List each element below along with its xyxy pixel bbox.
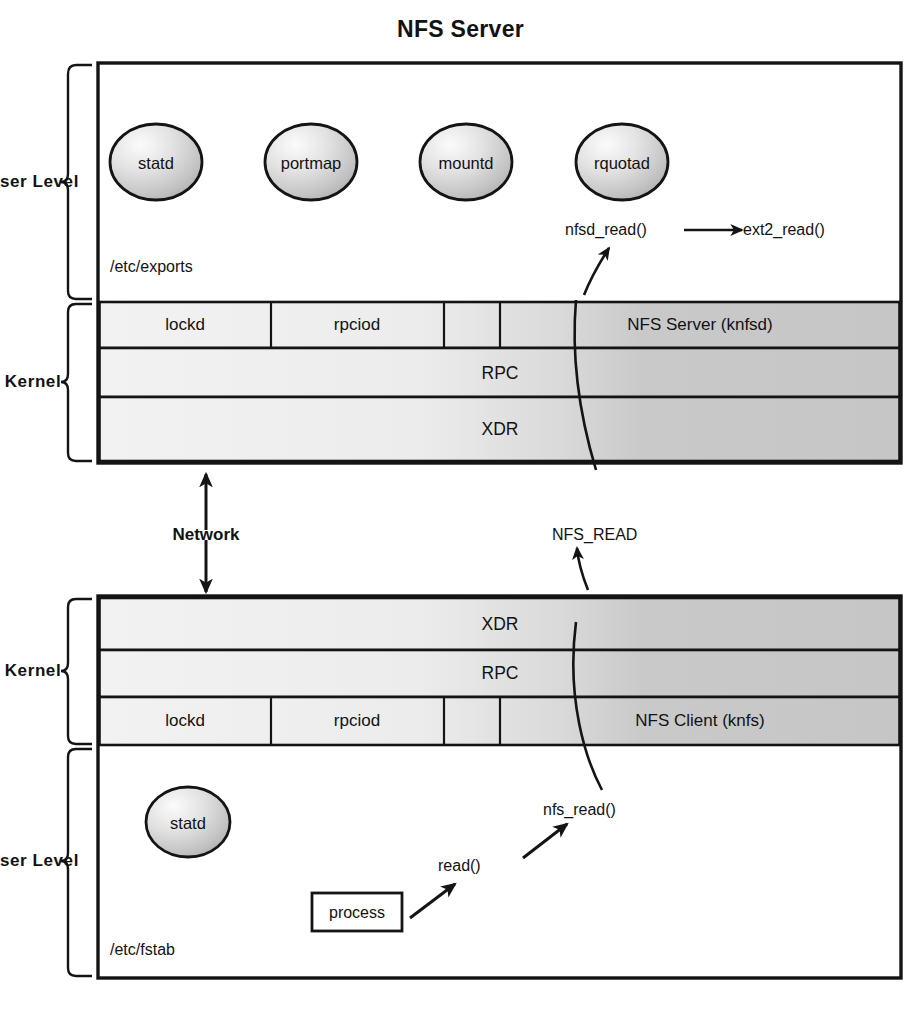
client-daemon-label-statd: statd <box>142 814 234 833</box>
label-nfs-read: nfs_read() <box>543 801 673 819</box>
process-box-label: process <box>309 904 405 922</box>
server-panel <box>98 63 901 463</box>
client-cell-rpc: RPC <box>420 663 580 684</box>
server-cell-lockd: lockd <box>110 315 260 335</box>
level-brackets <box>61 65 92 976</box>
client-user-level-label: User Level <box>0 851 118 871</box>
server-cell-rpciod: rpciod <box>282 315 432 335</box>
client-cell-xdr: XDR <box>420 614 580 635</box>
label-nfs-read-wire: NFS_READ <box>552 526 692 544</box>
network-label: Network <box>126 525 286 545</box>
daemon-label-statd: statd <box>110 154 202 173</box>
client-config-file-label: /etc/fstab <box>110 941 175 959</box>
daemon-label-portmap: portmap <box>265 154 357 173</box>
page-title: NFS Server <box>0 16 921 43</box>
server-config-file-label: /etc/exports <box>110 258 193 276</box>
daemon-label-rquotad: rquotad <box>576 154 668 173</box>
client-kernel-label: Kernel <box>0 661 103 681</box>
diagram-canvas: NFS Server User Level Kernel Kernel User… <box>0 0 921 1019</box>
label-ext2-read: ext2_read() <box>743 221 863 239</box>
server-cell-rpc: RPC <box>420 363 580 384</box>
server-user-level-label: User Level <box>0 172 118 192</box>
server-cell-xdr: XDR <box>420 419 580 440</box>
client-cell-rpciod: rpciod <box>282 711 432 731</box>
server-kernel-label: Kernel <box>0 372 103 392</box>
arrow-to-nfs-read-label <box>577 548 588 590</box>
client-cell-lockd: lockd <box>110 711 260 731</box>
daemon-label-mountd: mountd <box>420 154 512 173</box>
client-panel <box>98 596 901 978</box>
server-cell-knfsd: NFS Server (knfsd) <box>535 315 865 335</box>
client-cell-knfs: NFS Client (knfs) <box>535 711 865 731</box>
label-nfsd-read: nfsd_read() <box>565 221 685 239</box>
label-read: read() <box>438 857 548 875</box>
